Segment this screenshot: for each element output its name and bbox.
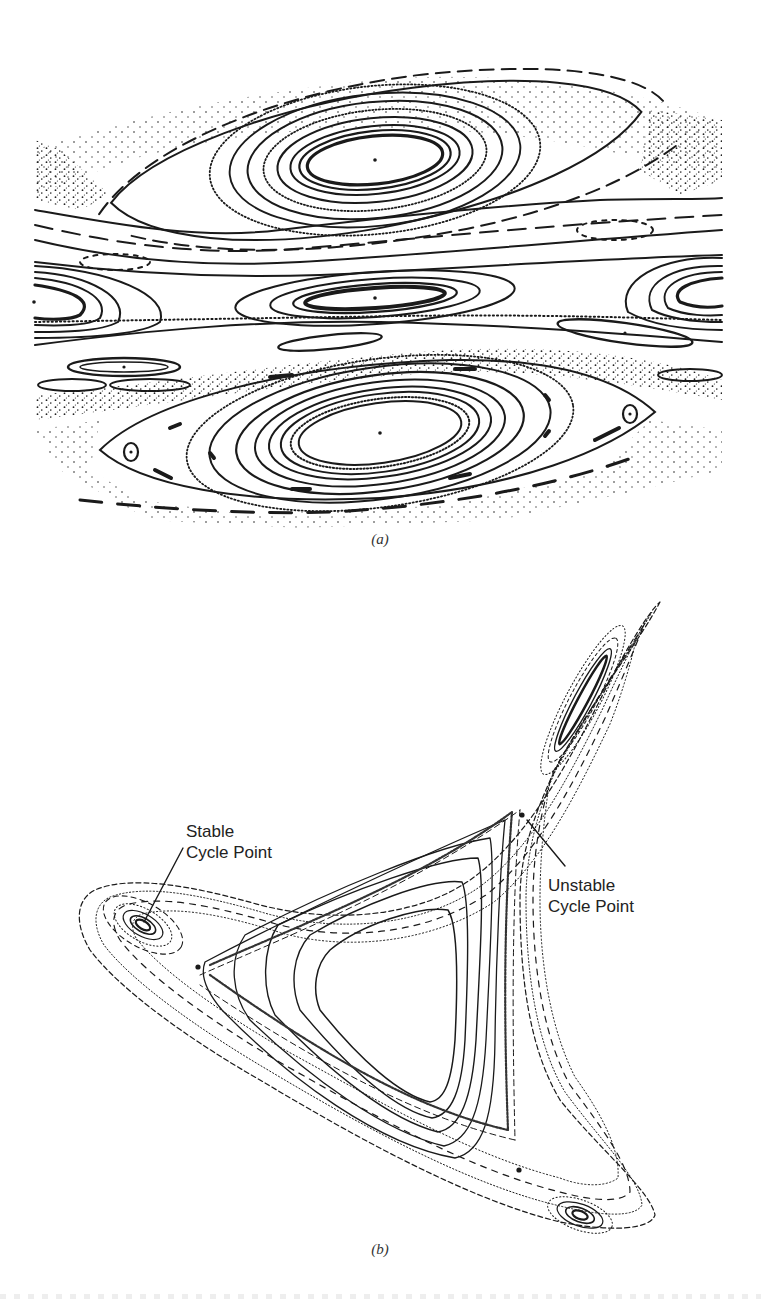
elliptic-point-lower bbox=[378, 431, 382, 435]
scan-edge-fringe bbox=[0, 1294, 761, 1299]
left-triangle-island bbox=[124, 443, 138, 461]
panel-b-caption: (b) bbox=[350, 1241, 410, 1258]
unstable-cycle-point-bottom bbox=[516, 1167, 521, 1172]
upper-arm-island bbox=[529, 618, 638, 782]
panel-b-phase-portrait bbox=[0, 590, 761, 1240]
left-arm-island bbox=[94, 884, 192, 966]
unstable-cycle-point-marker bbox=[519, 812, 524, 817]
unstable-label-line1: Unstable bbox=[548, 875, 634, 896]
stable-cycle-point-label: StableCycle Point bbox=[186, 821, 272, 863]
panel-a-plot bbox=[0, 60, 761, 530]
secondary-island-upper-right bbox=[577, 220, 653, 240]
right-triangle-island bbox=[623, 405, 637, 423]
stable-label-line1: Stable bbox=[186, 821, 272, 842]
panel-b-plot bbox=[0, 590, 761, 1240]
left-edge-island bbox=[35, 266, 161, 338]
unstable-label-line2: Cycle Point bbox=[548, 896, 634, 917]
panel-a-caption: (a) bbox=[350, 531, 410, 548]
elliptic-point-middle bbox=[373, 296, 377, 300]
panel-a-surface-of-section bbox=[0, 60, 761, 530]
secondary-island-upper-left bbox=[80, 254, 150, 270]
stable-label-line2: Cycle Point bbox=[186, 842, 272, 863]
elliptic-point-upper bbox=[373, 158, 377, 162]
unstable-cycle-point-label: UnstableCycle Point bbox=[548, 875, 634, 917]
central-triangle bbox=[203, 820, 505, 1158]
lower-arm-island bbox=[543, 1189, 617, 1240]
unstable-cycle-point-left bbox=[195, 964, 200, 969]
